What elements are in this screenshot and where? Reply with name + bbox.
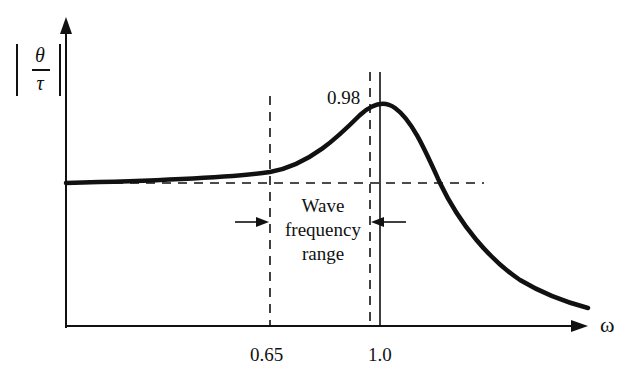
x-axis-arrow-icon [571, 320, 588, 332]
tick-label-10: 1.0 [368, 345, 392, 364]
y-label-numerator: θ [10, 44, 70, 67]
range-left-arrow-icon [256, 217, 269, 227]
range-label-line1: Wave [275, 196, 371, 215]
range-right-arrow-icon [371, 217, 384, 227]
range-label-line2: frequency [275, 220, 371, 239]
x-axis-label: ω [600, 314, 614, 336]
tick-label-065: 0.65 [250, 345, 283, 364]
y-label-fraction-line [32, 69, 50, 71]
range-label-line3: range [275, 244, 371, 263]
peak-label: 0.98 [327, 88, 360, 107]
abs-bar-right [59, 44, 61, 96]
y-axis-label: θ τ [10, 40, 70, 100]
resonance-diagram [0, 0, 640, 377]
y-axis-arrow-icon [60, 17, 72, 34]
y-label-denominator: τ [10, 72, 70, 95]
